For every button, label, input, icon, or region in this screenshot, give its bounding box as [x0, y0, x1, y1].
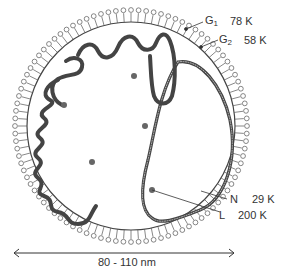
label-g1-sub: 1: [214, 19, 218, 28]
mass-g1: 78 K: [230, 16, 253, 27]
mass-n: 29 K: [252, 194, 275, 205]
viral-envelope: [13, 8, 250, 245]
polymerase-dot: [142, 123, 148, 129]
mass-g2: 58 K: [244, 35, 267, 46]
polymerase-dot: [61, 102, 67, 108]
nucleocapsid-segments: [35, 34, 232, 224]
polymerase-dot: [131, 73, 137, 79]
label-l: L: [219, 210, 225, 221]
scale-label: 80 - 110 nm: [98, 256, 156, 268]
virus-diagram: [0, 0, 283, 276]
label-n: N: [230, 194, 238, 205]
label-g2-sub: 2: [228, 38, 232, 47]
label-g1-letter: G: [205, 14, 214, 26]
label-g2: G2: [219, 34, 232, 47]
polymerase-dot: [89, 159, 95, 165]
segment-small: [35, 58, 96, 224]
segment-medium: [78, 34, 175, 103]
label-g2-letter: G: [219, 33, 228, 45]
mass-l: 200 K: [238, 210, 267, 221]
segment-large: [142, 62, 232, 222]
label-g1: G1: [205, 15, 218, 28]
